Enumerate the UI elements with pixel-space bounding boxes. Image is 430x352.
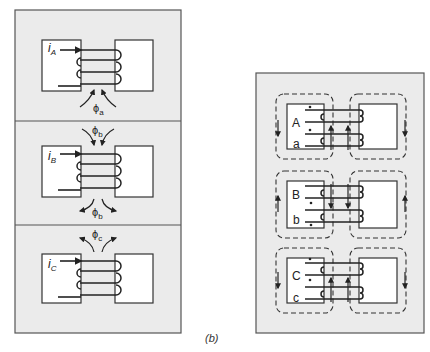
figure-caption: (b) [205, 332, 218, 344]
svg-text:A: A [292, 116, 300, 130]
svg-text:c: c [293, 291, 299, 305]
svg-text:a: a [293, 137, 300, 151]
svg-text:b: b [293, 213, 300, 227]
left-panel: iA ϕa iB ϕb ϕb [15, 10, 181, 333]
transformer-diagram: iA ϕa iB ϕb ϕb [0, 0, 430, 352]
svg-text:B: B [292, 188, 300, 202]
right-panel: A a B b [256, 73, 424, 333]
svg-text:C: C [292, 269, 301, 283]
